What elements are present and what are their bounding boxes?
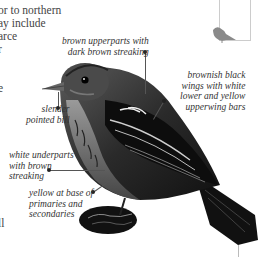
callout-yellow: yellow at base of primaries and secondar… <box>29 188 93 220</box>
divider-line <box>238 245 239 257</box>
callout-wings: brownish black wings with white lower an… <box>180 70 245 112</box>
callout-line: lower and yellow <box>180 91 245 102</box>
bullet-dot <box>162 99 166 103</box>
callout-line: brownish black <box>180 70 245 81</box>
callout-line: brown upperparts with <box>62 36 149 47</box>
callout-line: streaking <box>9 171 74 182</box>
callout-line: primaries and <box>29 199 93 210</box>
callout-line: yellow at base of <box>29 188 93 199</box>
callout-line: white underparts <box>9 150 74 161</box>
callout-upperparts: brown upperparts with dark brown streaki… <box>62 36 149 57</box>
callout-line: pointed bill <box>26 115 70 126</box>
callout-line: upperwing bars <box>180 102 245 113</box>
leader-line <box>145 52 146 94</box>
callout-line: secondaries <box>29 209 93 220</box>
callout-line: wings with white <box>180 81 245 92</box>
callout-bill: slender pointed bill <box>26 104 70 125</box>
callout-line: slender <box>26 104 70 115</box>
callout-line: dark brown streaking <box>62 47 149 58</box>
callout-underparts: white underparts with brown streaking <box>9 150 74 182</box>
callout-line: with brown <box>9 161 74 172</box>
